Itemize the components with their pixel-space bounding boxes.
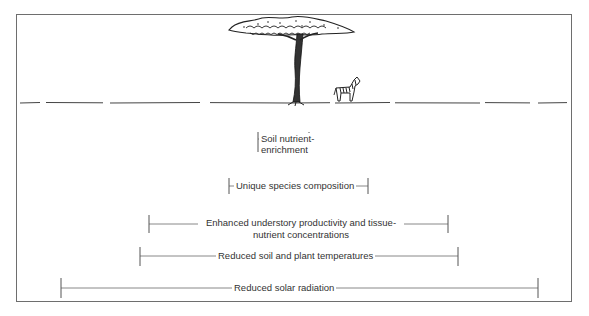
label-line: Soil nutrient- [261,133,308,144]
label-soil-nutrient-enrichment: Soil nutrient- enrichment [259,133,310,155]
effect-brackets [61,132,538,298]
diagram-canvas [0,0,589,316]
label-line: enrichment [261,144,308,155]
label-line: Reduced solar radiation [234,282,334,294]
label-reduced-solar-radiation: Reduced solar radiation [232,282,336,294]
ground-line [20,103,567,104]
label-enhanced-understory-productivity: Enhanced understory productivity and tis… [198,217,404,241]
label-unique-species-composition: Unique species composition [234,180,356,192]
label-line: Reduced soil and plant temperatures [218,250,373,262]
zebra-icon [334,77,360,101]
label-line: Enhanced understory productivity and tis… [200,217,402,229]
label-reduced-soil-plant-temperatures: Reduced soil and plant temperatures [216,250,375,262]
label-line: Unique species composition [236,180,354,192]
label-line: nutrient concentrations [200,229,402,241]
acacia-tree-icon [229,16,354,106]
